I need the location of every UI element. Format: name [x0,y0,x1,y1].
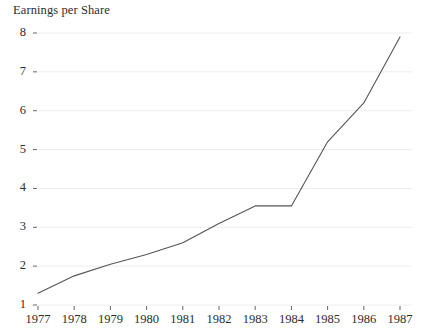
earnings-per-share-chart: Earnings per Share 12345678 197719781979… [0,0,427,334]
y-tick-label: 4 [8,180,26,195]
y-axis-ticks [33,33,37,305]
x-tick-label: 1977 [18,312,58,327]
x-tick-label: 1980 [127,312,167,327]
y-tick-label: 5 [8,142,26,157]
y-tick-label: 7 [8,64,26,79]
x-tick-label: 1987 [380,312,420,327]
y-tick-label: 3 [8,219,26,234]
x-tick-label: 1978 [54,312,94,327]
y-tick-label: 1 [8,297,26,312]
x-tick-label: 1982 [199,312,239,327]
y-tick-label: 2 [8,258,26,273]
x-tick-label: 1985 [308,312,348,327]
x-tick-label: 1984 [271,312,311,327]
plot-area [0,0,427,334]
y-tick-label: 6 [8,103,26,118]
y-tick-label: 8 [8,25,26,40]
x-axis-ticks [38,306,400,310]
x-tick-label: 1981 [163,312,203,327]
gridlines [38,33,412,305]
data-series-line [38,37,400,293]
x-tick-label: 1986 [344,312,384,327]
x-tick-label: 1983 [235,312,275,327]
x-tick-label: 1979 [90,312,130,327]
